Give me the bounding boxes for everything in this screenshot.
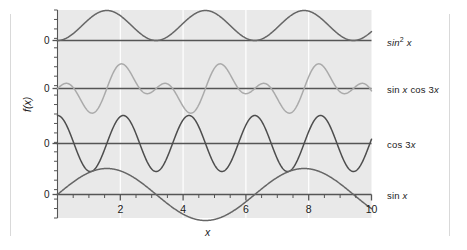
y-tick-label-zero-3: 0 <box>44 189 50 200</box>
figure-container: 0000246810 f(x) x sin2 x sin x cos 3x co… <box>0 0 467 250</box>
x-tick-label-10: 10 <box>366 203 378 215</box>
y-tick-label-zero-2: 0 <box>44 138 50 149</box>
y-tick-label-zero-1: 0 <box>44 83 50 94</box>
x-tick-label-8: 8 <box>306 203 312 215</box>
x-tick-label-2: 2 <box>117 203 123 215</box>
x-axis-title: x <box>205 226 210 238</box>
series-label-sin-x-cos-3x: sin x cos 3x <box>387 84 439 95</box>
series-label-cos-3x: cos 3x <box>387 139 416 150</box>
x-tick-label-6: 6 <box>243 203 249 215</box>
plot-background <box>58 10 372 218</box>
y-axis-title: f(x) <box>21 97 33 112</box>
series-label-sin-x: sin x <box>387 190 408 201</box>
series-label-sin-squared-x: sin2 x <box>387 36 412 48</box>
x-tick-label-4: 4 <box>180 203 186 215</box>
y-tick-label-zero-0: 0 <box>44 35 50 46</box>
